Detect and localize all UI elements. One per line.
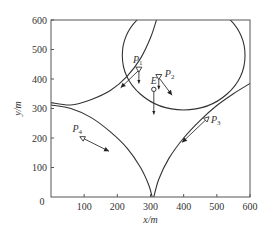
p2-arrow-head <box>167 90 172 95</box>
y-tick-label: 300 <box>32 103 47 114</box>
p3-arrow-line <box>182 119 207 143</box>
circle-P2 <box>122 1 245 110</box>
p1-label-subscript: 1 <box>139 59 143 67</box>
e-label: E <box>150 75 157 86</box>
y-axis-label: y/m <box>12 101 23 116</box>
origin-label: 0 <box>40 196 45 207</box>
e-arrow-head <box>152 111 155 115</box>
p1-marker <box>136 67 142 72</box>
e-marker <box>152 87 156 91</box>
x-tick-label: 300 <box>143 201 158 212</box>
annotations-layer: P1P2P3P4E <box>72 54 221 136</box>
p2-label-subscript: 2 <box>171 73 175 81</box>
p4-marker <box>80 137 86 141</box>
chart: 100200300400500600 100200300400500600 0 … <box>0 0 271 234</box>
y-tick-label: 600 <box>32 15 47 26</box>
y-tick-label: 100 <box>32 162 47 173</box>
x-tick-label: 200 <box>110 201 125 212</box>
curves-layer <box>51 1 250 197</box>
y-tick-label: 500 <box>32 44 47 55</box>
p2-label: P2 <box>164 68 175 81</box>
x-tick-label: 600 <box>243 201 258 212</box>
p3-label: P3 <box>210 114 221 127</box>
boundary-P3 <box>154 83 250 197</box>
x-tick-label: 400 <box>176 201 191 212</box>
boundary-P4 <box>51 105 152 197</box>
p3-label-subscript: 3 <box>217 119 221 127</box>
y-tick-label: 400 <box>32 74 47 85</box>
x-tick-label: 100 <box>77 201 92 212</box>
p2-arrow-head <box>157 86 160 90</box>
p4-label: P4 <box>72 123 83 136</box>
x-axis-label: x/m <box>142 214 157 225</box>
plot-frame <box>51 20 250 197</box>
p1-arrow-head <box>137 80 140 84</box>
y-tick-label: 200 <box>32 133 47 144</box>
x-tick-label: 500 <box>209 201 224 212</box>
p4-label-subscript: 4 <box>79 128 83 136</box>
